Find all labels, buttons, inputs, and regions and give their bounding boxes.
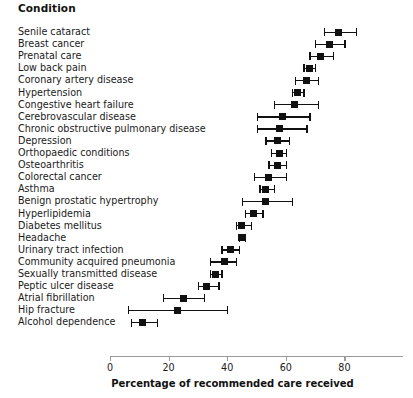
ci-upper-cap bbox=[251, 222, 252, 230]
row-label: Peptic ulcer disease bbox=[18, 280, 114, 292]
data-point-marker bbox=[180, 295, 187, 302]
chart-row: Community acquired pneumonia bbox=[0, 256, 413, 268]
row-label: Breast cancer bbox=[18, 38, 84, 50]
data-point-marker bbox=[306, 65, 313, 72]
row-label: Senile cataract bbox=[18, 26, 90, 38]
row-label: Prenatal care bbox=[18, 50, 81, 62]
x-axis-tick-label: 40 bbox=[221, 362, 233, 373]
ci-lower-cap bbox=[257, 113, 258, 121]
data-point-marker bbox=[274, 137, 281, 144]
data-point-marker bbox=[262, 186, 269, 193]
row-label: Hyperlipidemia bbox=[18, 208, 91, 220]
ci-lower-cap bbox=[163, 294, 164, 302]
ci-lower-cap bbox=[242, 198, 243, 206]
chart-row: Atrial fibrillation bbox=[0, 292, 413, 304]
ci-upper-cap bbox=[204, 294, 205, 302]
ci-upper-cap bbox=[221, 270, 222, 278]
ci-upper-cap bbox=[286, 161, 287, 169]
ci-lower-cap bbox=[259, 185, 260, 193]
data-point-marker bbox=[291, 101, 298, 108]
ci-upper-cap bbox=[274, 185, 275, 193]
row-label: Urinary tract infection bbox=[18, 244, 124, 256]
x-axis-tick-label: 0 bbox=[107, 362, 113, 373]
data-point-marker bbox=[265, 174, 272, 181]
x-axis-line bbox=[110, 356, 403, 357]
ci-upper-cap bbox=[289, 137, 290, 145]
ci-lower-cap bbox=[254, 173, 255, 181]
ci-upper-cap bbox=[236, 258, 237, 266]
chart-row: Diabetes mellitus bbox=[0, 220, 413, 232]
ci-upper-cap bbox=[157, 319, 158, 327]
x-axis: 020406080 Percentage of recommended care… bbox=[0, 356, 413, 398]
row-label: Colorectal cancer bbox=[18, 171, 102, 183]
ci-upper-cap bbox=[344, 40, 345, 48]
data-point-marker bbox=[274, 162, 281, 169]
ci-lower-cap bbox=[271, 149, 272, 157]
ci-lower-cap bbox=[257, 125, 258, 133]
data-point-marker bbox=[303, 77, 310, 84]
ci-lower-cap bbox=[295, 77, 296, 85]
row-label: Community acquired pneumonia bbox=[18, 256, 175, 268]
x-axis-tick-label: 60 bbox=[280, 362, 292, 373]
chart-row: Chronic obstructive pulmonary disease bbox=[0, 123, 413, 135]
ci-upper-cap bbox=[286, 173, 287, 181]
ci-upper-cap bbox=[306, 125, 307, 133]
row-label: Headache bbox=[18, 232, 66, 244]
ci-lower-cap bbox=[292, 89, 293, 97]
data-point-marker bbox=[227, 246, 234, 253]
row-label: Cerebrovascular disease bbox=[18, 111, 136, 123]
row-label: Diabetes mellitus bbox=[18, 220, 102, 232]
ci-upper-cap bbox=[315, 64, 316, 72]
x-axis-tick bbox=[169, 356, 170, 361]
ci-lower-cap bbox=[303, 64, 304, 72]
ci-lower-cap bbox=[265, 137, 266, 145]
x-axis-title: Percentage of recommended care received bbox=[0, 378, 413, 389]
ci-lower-cap bbox=[128, 306, 129, 314]
ci-lower-cap bbox=[210, 270, 211, 278]
chart-row: Sexually transmitted disease bbox=[0, 268, 413, 280]
row-label: Low back pain bbox=[18, 62, 87, 74]
ci-lower-cap bbox=[221, 246, 222, 254]
data-point-marker bbox=[238, 234, 245, 241]
data-point-marker bbox=[139, 319, 146, 326]
row-label: Sexually transmitted disease bbox=[18, 268, 157, 280]
data-point-marker bbox=[174, 307, 181, 314]
chart-row: Colorectal cancer bbox=[0, 171, 413, 183]
x-axis-tick bbox=[227, 356, 228, 361]
data-point-marker bbox=[250, 210, 257, 217]
ci-upper-cap bbox=[318, 77, 319, 85]
ci-lower-cap bbox=[268, 161, 269, 169]
chart-row: Depression bbox=[0, 135, 413, 147]
data-point-marker bbox=[279, 113, 286, 120]
ci-upper-cap bbox=[356, 28, 357, 36]
chart-row: Headache bbox=[0, 232, 413, 244]
data-point-marker bbox=[326, 41, 333, 48]
row-label: Osteoarthritis bbox=[18, 159, 84, 171]
chart-row: Low back pain bbox=[0, 62, 413, 74]
chart-row: Alcohol dependence bbox=[0, 316, 413, 328]
row-label: Alcohol dependence bbox=[18, 316, 115, 328]
chart-row: Hip fracture bbox=[0, 304, 413, 316]
data-point-marker bbox=[335, 29, 342, 36]
data-point-marker bbox=[276, 125, 283, 132]
ci-lower-cap bbox=[324, 28, 325, 36]
row-label: Orthopaedic conditions bbox=[18, 147, 130, 159]
ci-lower-cap bbox=[274, 101, 275, 109]
data-point-marker bbox=[203, 283, 210, 290]
ci-upper-cap bbox=[218, 282, 219, 290]
ci-upper-cap bbox=[227, 306, 228, 314]
ci-upper-cap bbox=[309, 113, 310, 121]
row-label: Hip fracture bbox=[18, 304, 75, 316]
row-label: Chronic obstructive pulmonary disease bbox=[18, 123, 206, 135]
chart-row: Osteoarthritis bbox=[0, 159, 413, 171]
row-label: Coronary artery disease bbox=[18, 74, 133, 86]
ci-upper-cap bbox=[239, 246, 240, 254]
chart-row: Urinary tract infection bbox=[0, 244, 413, 256]
x-axis-tick bbox=[286, 356, 287, 361]
data-point-marker bbox=[238, 222, 245, 229]
ci-lower-cap bbox=[315, 40, 316, 48]
chart-row: Asthma bbox=[0, 183, 413, 195]
x-axis-tick-label: 80 bbox=[338, 362, 350, 373]
plot-area: Senile cataractBreast cancerPrenatal car… bbox=[0, 26, 413, 356]
chart-row: Peptic ulcer disease bbox=[0, 280, 413, 292]
